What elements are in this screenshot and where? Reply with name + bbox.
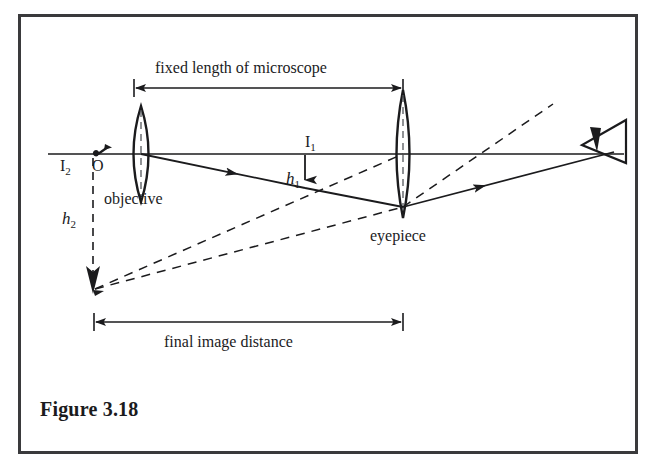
label-objective: objective (104, 191, 163, 207)
label-height-two-subscript: 2 (71, 218, 77, 230)
ray-segment-eyepiece-to-eye (403, 152, 614, 207)
virtual-ray-upper-extension (403, 104, 553, 207)
ray-segment-objective-to-image1 (141, 154, 305, 188)
ray-to-eye (403, 152, 614, 207)
figure-caption: Figure 3.18 (40, 398, 139, 421)
dimension-label-final-image-distance: final image distance (164, 334, 293, 350)
eye-icon (582, 120, 626, 163)
eye-outline (582, 120, 626, 163)
label-image-one: I1 (305, 134, 316, 153)
dimension-fixed-length (134, 79, 403, 97)
label-image-two: I2 (60, 158, 71, 177)
virtual-ray-to-eyepiece-lower (95, 207, 403, 289)
label-image-one-subscript: 1 (310, 141, 316, 153)
label-height-one-text: h (286, 169, 295, 188)
label-object-point: O (92, 158, 104, 174)
label-image-two-subscript: 2 (65, 165, 71, 177)
label-height-one-subscript: 1 (295, 178, 301, 190)
final-image-tip (93, 290, 104, 296)
label-height-one: h1 (286, 170, 300, 190)
figure-container: fixed length of microscope final image d… (0, 0, 654, 466)
label-eyepiece: eyepiece (370, 228, 426, 244)
dimension-label-fixed-length: fixed length of microscope (155, 60, 327, 76)
label-height-two: h2 (62, 210, 76, 230)
ray-through-objective (141, 154, 403, 207)
h2-measure-arrow (86, 158, 104, 296)
label-height-two-text: h (62, 209, 71, 228)
virtual-ray-lines (95, 104, 553, 289)
optics-ray-diagram (0, 0, 654, 466)
dimension-final-image-distance (94, 313, 403, 331)
